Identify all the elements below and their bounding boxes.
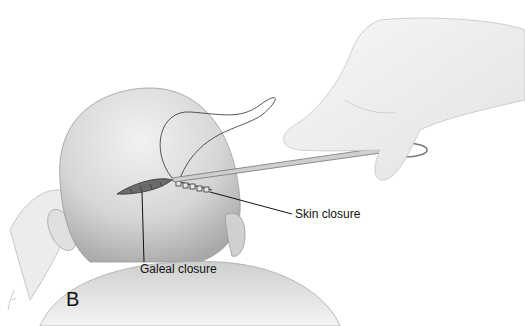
panel-letter: B: [66, 288, 79, 311]
gloved-hand: [284, 18, 525, 180]
galeal-closure-label: Galeal closure: [140, 262, 217, 276]
surgical-illustration: Skin closure Galeal closure B: [0, 0, 525, 326]
artist-signature: [8, 290, 16, 310]
skin-closure-label: Skin closure: [295, 207, 360, 221]
